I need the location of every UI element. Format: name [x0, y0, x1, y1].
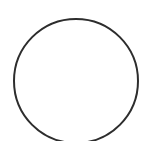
drawing-canvas — [0, 0, 145, 141]
circle-shape — [14, 19, 138, 141]
circle-figure — [0, 0, 145, 141]
